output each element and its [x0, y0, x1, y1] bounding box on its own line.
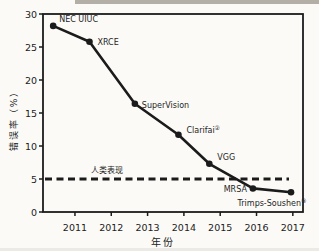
- y-tick-label: 15: [25, 108, 37, 119]
- x-tick-label: 2011: [63, 222, 87, 233]
- data-point-label: MRSA: [224, 185, 248, 194]
- footnote-superscript: ③: [301, 197, 306, 204]
- human-performance-label: 人类表现: [91, 165, 123, 175]
- data-point: [86, 38, 93, 45]
- data-point-label: Clarifai②: [186, 124, 220, 135]
- data-point: [288, 189, 295, 196]
- data-point-label: VGG: [217, 153, 235, 162]
- x-tick-label: 2013: [135, 222, 159, 233]
- y-tick-label: 20: [25, 75, 37, 86]
- y-axis-label: 错误率（%）: [7, 69, 20, 169]
- x-tick-label: 2014: [172, 222, 196, 233]
- data-point-label: NEC UIUC: [59, 15, 98, 24]
- data-point-label: XRCE: [97, 38, 118, 47]
- data-point: [175, 131, 182, 138]
- y-tick-label: 10: [25, 141, 37, 152]
- plot-frame: [43, 14, 303, 212]
- data-point: [206, 161, 213, 168]
- data-point: [132, 100, 139, 107]
- x-tick-label: 2017: [281, 222, 305, 233]
- footnote-superscript: ②: [215, 124, 220, 131]
- y-tick-label: 0: [31, 207, 37, 218]
- data-point: [250, 185, 257, 192]
- data-point-label: SuperVision: [142, 101, 189, 110]
- data-point-label: Trimps-Soushen③: [237, 197, 307, 208]
- x-tick-label: 2016: [244, 222, 268, 233]
- imagenet-error-rate-line-chart: 人类表现051015202530201120122013201420152016…: [0, 0, 319, 251]
- x-tick-label: 2012: [99, 222, 123, 233]
- x-axis-label: 年份: [123, 234, 203, 249]
- data-point: [50, 23, 57, 30]
- y-tick-label: 5: [31, 174, 37, 185]
- y-tick-label: 25: [25, 42, 37, 53]
- x-tick-label: 2015: [208, 222, 232, 233]
- y-tick-label: 30: [25, 9, 37, 20]
- scanned-chart-page: 人类表现051015202530201120122013201420152016…: [0, 0, 319, 251]
